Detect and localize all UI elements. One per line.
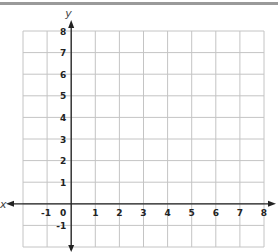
x-axis-arrow-left [6,201,14,207]
x-axis-arrow-right [268,201,276,207]
x-tick-label: -1 [41,208,51,218]
y-tick-label: 6 [60,70,66,80]
coordinate-plane: -101234567887654321-1 x y [0,0,278,252]
y-tick-label: -1 [56,221,66,231]
x-tick-label: 3 [140,208,146,218]
y-tick-label: 8 [60,27,66,37]
x-tick-label: 2 [116,208,122,218]
x-tick-label: 7 [237,208,243,218]
y-tick-label: 7 [60,48,66,58]
x-tick-label: 8 [261,208,267,218]
x-tick-label: 4 [164,208,170,218]
tick-labels: -101234567887654321-1 [41,27,267,231]
y-tick-label: 5 [60,91,66,101]
x-tick-label: 6 [213,208,219,218]
y-tick-label: 4 [60,113,66,123]
y-tick-label: 1 [60,178,66,188]
x-axis-label: x [0,198,7,211]
x-tick-label: 0 [60,208,66,218]
y-axis-arrow-down [68,245,74,252]
x-tick-label: 1 [92,208,98,218]
y-axis-arrow-up [68,20,74,28]
y-tick-label: 2 [60,156,66,166]
y-axis-label: y [64,7,72,20]
x-tick-label: 5 [189,208,195,218]
y-tick-label: 3 [60,135,66,145]
